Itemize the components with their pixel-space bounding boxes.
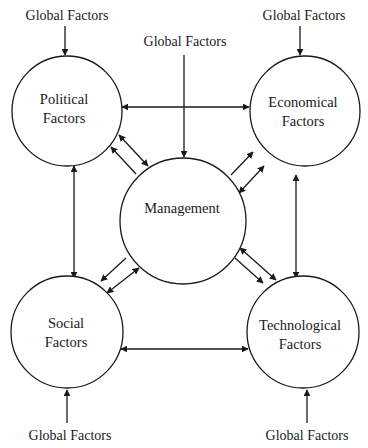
global-factors-label-technological: Global Factors [266, 428, 349, 443]
global-factors-label-economical: Global Factors [263, 8, 346, 23]
global-factors-label-management: Global Factors [144, 34, 227, 49]
arrow-political-management [119, 135, 148, 166]
political-label-line2: Factors [43, 110, 86, 126]
node-management: Management [120, 158, 246, 284]
political-label-line1: Political [40, 91, 88, 107]
node-social: Social Factors [11, 276, 123, 388]
social-label-line2: Factors [45, 334, 88, 350]
arrow-economical-management [239, 166, 264, 193]
arrow-management-to-technological [235, 258, 263, 283]
node-political: Political Factors [12, 56, 122, 166]
node-technological: Technological Factors [247, 276, 359, 388]
arrow-management-to-economical [231, 152, 253, 175]
social-label-line1: Social [48, 315, 84, 331]
economical-label-line2: Factors [282, 113, 325, 129]
arrow-management-to-social [101, 258, 126, 281]
node-economical: Economical Factors [250, 56, 360, 166]
arrow-technological-management [240, 248, 276, 280]
arrow-management-to-political [111, 147, 136, 174]
economical-label-line1: Economical [268, 94, 337, 110]
global-factors-label-social: Global Factors [29, 428, 112, 443]
factors-diagram: Political Factors Economical Factors Man… [0, 0, 368, 448]
management-label: Management [144, 200, 220, 216]
global-factors-label-political: Global Factors [26, 8, 109, 23]
technological-label-line1: Technological [259, 317, 341, 333]
technological-label-line2: Factors [279, 336, 322, 352]
